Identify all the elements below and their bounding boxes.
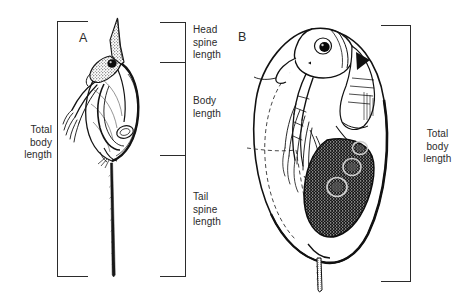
label-total-body-length-right: Total body length <box>414 128 461 166</box>
specimen-a-eye <box>107 59 116 67</box>
specimen-a-drawing <box>63 18 138 277</box>
daphnia-morphometry-figure: A B Total body length Head spine length … <box>0 0 463 297</box>
total-body-length-bracket-a <box>57 21 88 277</box>
label-tail-spine-length: Tail spine length <box>193 191 255 229</box>
label-head-spine-length: Head spine length <box>193 24 255 62</box>
segment-brackets-column <box>160 22 186 277</box>
panel-letter-a: A <box>79 32 87 45</box>
specimen-a-tail-spine <box>109 163 116 277</box>
label-body-length: Body length <box>193 95 255 120</box>
specimen-b-drawing <box>247 28 387 292</box>
specimen-b-eye <box>319 42 329 52</box>
label-total-body-length-left: Total body length <box>2 124 52 162</box>
